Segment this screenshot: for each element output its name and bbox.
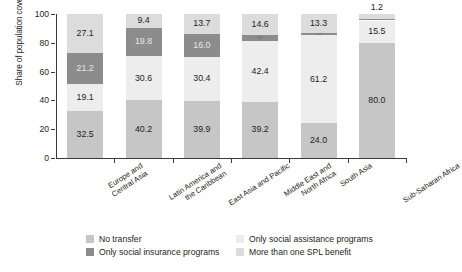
- y-tick-mark: [51, 14, 55, 15]
- bar-segment: 32.5: [67, 111, 103, 158]
- bar-segment: 16.0: [184, 34, 220, 57]
- y-tick-label: 20: [39, 124, 49, 134]
- segment-value-label: 24.0: [310, 136, 327, 145]
- y-tick-mark: [51, 129, 55, 130]
- legend-item[interactable]: Only social insurance programs: [86, 247, 236, 257]
- x-category-label: Sub-Saharan Africa: [401, 162, 461, 205]
- legend-label: No transfer: [99, 234, 142, 244]
- bar: 24.061.21.513.3: [301, 14, 337, 158]
- bar-segment: 39.2: [242, 102, 278, 158]
- bar-segment: 9.4: [126, 14, 162, 28]
- y-tick-mark: [51, 72, 55, 73]
- segment-value-label: 27.1: [77, 29, 94, 38]
- legend-swatch: [86, 235, 94, 243]
- x-category-label: Latin America andthe Caribbean: [167, 162, 228, 210]
- y-tick-mark: [51, 158, 55, 159]
- segment-value-label: 32.5: [77, 130, 94, 139]
- y-tick-label: 40: [39, 95, 49, 105]
- y-tick-label: 100: [35, 9, 49, 19]
- bar-segment: [359, 14, 395, 19]
- y-tick-label: 60: [39, 67, 49, 77]
- legend-item[interactable]: No transfer: [86, 234, 236, 244]
- legend-label: More than one SPL benefit: [249, 247, 351, 257]
- bar: 80.015.51.21.2: [359, 14, 395, 158]
- x-category-label: Europe andCentral Asia: [106, 162, 150, 199]
- legend-item[interactable]: Only social assistance programs: [236, 234, 416, 244]
- x-category-label-line: South Asia: [338, 162, 373, 189]
- bar-segment: 61.2: [301, 35, 337, 123]
- segment-value-label: 1.5: [316, 33, 322, 35]
- bar-segment: 30.4: [184, 57, 220, 101]
- segment-value-label: 39.9: [193, 125, 210, 134]
- segment-value-label: 19.8: [135, 37, 152, 46]
- bar: 40.230.619.89.4: [126, 14, 162, 158]
- segment-value-label: 15.5: [368, 27, 385, 36]
- segment-value-label: 19.1: [77, 93, 94, 102]
- x-tick-mark: [348, 158, 349, 163]
- bar-segment: 40.2: [126, 100, 162, 158]
- legend-swatch: [86, 248, 94, 256]
- y-tick-mark: [51, 100, 55, 101]
- bar-segment: 1.2: [359, 19, 395, 21]
- y-tick-label: 80: [39, 38, 49, 48]
- x-tick-mark: [114, 158, 115, 163]
- bar-segment: 3.8: [242, 35, 278, 40]
- bar-segment: 27.1: [67, 14, 103, 53]
- y-axis-title: Share of population covered (%): [15, 0, 24, 104]
- x-tick-mark: [231, 158, 232, 163]
- x-category-label-line: Sub-Saharan Africa: [401, 162, 461, 205]
- segment-value-label: 40.2: [135, 125, 152, 134]
- legend-label: Only social insurance programs: [99, 247, 219, 257]
- bar: 32.519.121.227.1: [67, 14, 103, 158]
- x-tick-mark: [173, 158, 174, 163]
- y-axis-ticks: 020406080100: [56, 14, 406, 158]
- legend-swatch: [236, 248, 244, 256]
- segment-value-label: 61.2: [310, 75, 327, 84]
- segment-value-label: 39.2: [252, 125, 269, 134]
- x-category-label-line: East Asia and Pacific: [227, 162, 291, 208]
- x-category-label: East Asia and Pacific: [227, 162, 291, 208]
- bar-segment: 42.4: [242, 41, 278, 102]
- legend-item[interactable]: More than one SPL benefit: [236, 247, 416, 257]
- segment-value-label: 21.2: [77, 64, 94, 73]
- bar-segment: 19.8: [126, 28, 162, 57]
- chart-legend: No transferOnly social assistance progra…: [86, 232, 416, 258]
- x-tick-mark: [289, 158, 290, 163]
- bar-segment: 13.3: [301, 14, 337, 33]
- plot-area: 020406080100 32.519.121.227.140.230.619.…: [56, 14, 406, 158]
- bar-segment: 80.0: [359, 43, 395, 158]
- segment-value-label: 30.6: [135, 74, 152, 83]
- segment-value-label: 42.4: [252, 67, 269, 76]
- bar-segment: 30.6: [126, 56, 162, 100]
- x-tick-mark: [406, 158, 407, 163]
- x-category-label: South Asia: [338, 162, 373, 189]
- bar-segment: 21.2: [67, 53, 103, 84]
- bar-segment: 14.6: [242, 14, 278, 35]
- bar-segment: 39.9: [184, 101, 220, 158]
- legend-label: Only social assistance programs: [249, 234, 373, 244]
- segment-value-label: 1.2: [374, 19, 380, 21]
- segment-value-label: 16.0: [193, 41, 210, 50]
- y-tick-label: 0: [44, 153, 49, 163]
- bar-segment: 15.5: [359, 21, 395, 43]
- segment-value-label-above: 1.2: [359, 3, 395, 12]
- segment-value-label: 14.6: [252, 20, 269, 29]
- legend-swatch: [236, 235, 244, 243]
- segment-value-label: 3.8: [257, 36, 263, 40]
- segment-value-label: 80.0: [368, 96, 385, 105]
- bar-segment: 19.1: [67, 84, 103, 112]
- bar: 39.930.416.013.7: [184, 14, 220, 158]
- bar-segment: 13.7: [184, 14, 220, 34]
- bar-segment: 1.5: [301, 33, 337, 35]
- segment-value-label: 30.4: [193, 74, 210, 83]
- bar: 39.242.43.814.6: [242, 14, 278, 158]
- segment-value-label: 9.4: [137, 16, 149, 25]
- segment-value-label: 13.7: [193, 19, 210, 28]
- y-tick-mark: [51, 43, 55, 44]
- segment-value-label: 13.3: [310, 19, 327, 28]
- bar-segment: 24.0: [301, 123, 337, 158]
